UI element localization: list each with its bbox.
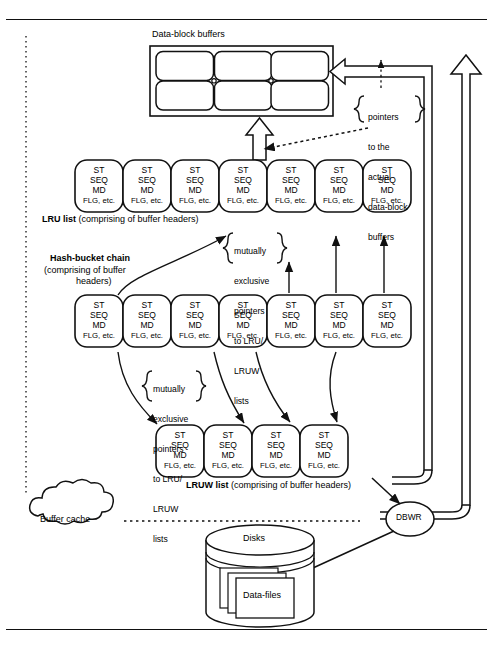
buffer-header-lru-3: STSEQMDFLG, etc. [171, 165, 219, 206]
buffer-header-field-line4: FLG, etc. [171, 331, 219, 341]
buffer-header-hash-5: STSEQMDFLG, etc. [267, 300, 315, 341]
buffer-header-field-line4: FLG, etc. [300, 461, 348, 471]
buffer-header-lru-4: STSEQMDFLG, etc. [219, 165, 267, 206]
buffer-header-field-line1: ST [123, 300, 171, 310]
buffer-header-field-line2: SEQ [300, 440, 348, 450]
buffer-header-field-line1: ST [219, 165, 267, 175]
buffer-header-field-line4: FLG, etc. [75, 331, 123, 341]
buffer-cache-label: Buffer cache [40, 515, 90, 525]
buffer-header-field-line2: SEQ [267, 175, 315, 185]
buffer-header-field-line3: MD [267, 185, 315, 195]
hash-bucket-chain-sub2: headers) [76, 277, 112, 287]
buffer-header-field-line1: ST [252, 430, 300, 440]
buffer-header-field-line4: FLG, etc. [363, 331, 411, 341]
lruw-list-label: LRUW list [186, 480, 229, 490]
data-files-label: Data-files [243, 591, 281, 601]
lru-list-caption: LRU list (comprising of buffer headers) [42, 215, 198, 225]
buffer-header-hash-7: STSEQMDFLG, etc. [363, 300, 411, 341]
buffer-header-lruw-3: STSEQMDFLG, etc. [252, 430, 300, 471]
buffer-header-field-line3: MD [171, 185, 219, 195]
buffer-header-field-line3: MD [315, 320, 363, 330]
buffer-header-field-line2: SEQ [219, 175, 267, 185]
buffer-header-field-line3: MD [75, 320, 123, 330]
buffer-header-field-line3: MD [156, 450, 204, 460]
buffer-header-field-line2: SEQ [219, 310, 267, 320]
buffer-header-field-line4: FLG, etc. [219, 331, 267, 341]
buffer-header-field-line3: MD [363, 185, 411, 195]
buffer-header-field-line1: ST [315, 165, 363, 175]
hash-bucket-chain-label: Hash-bucket chain [50, 254, 130, 264]
buffer-header-hash-4: STSEQMDFLG, etc. [219, 300, 267, 341]
buffer-header-field-line4: FLG, etc. [315, 196, 363, 206]
buffer-header-field-line1: ST [171, 300, 219, 310]
buffer-header-field-line3: MD [219, 320, 267, 330]
buffer-header-field-line1: ST [267, 300, 315, 310]
buffer-header-field-line4: FLG, etc. [156, 461, 204, 471]
buffer-header-field-line4: FLG, etc. [171, 196, 219, 206]
buffer-header-field-line2: SEQ [363, 310, 411, 320]
data-block-buffers-label: Data-block buffers [152, 30, 225, 40]
buffer-header-field-line4: FLG, etc. [123, 331, 171, 341]
buffer-header-field-line2: SEQ [204, 440, 252, 450]
buffer-header-lru-1: STSEQMDFLG, etc. [75, 165, 123, 206]
buffer-header-field-line4: FLG, etc. [363, 196, 411, 206]
buffer-header-field-line2: SEQ [363, 175, 411, 185]
buffer-header-field-line1: ST [123, 165, 171, 175]
lruw-list-sublabel: (comprising of buffer headers) [229, 480, 351, 490]
buffer-header-field-line1: ST [219, 300, 267, 310]
buffer-header-field-line1: ST [156, 430, 204, 440]
buffer-header-field-line2: SEQ [171, 175, 219, 185]
lru-list-sublabel: (comprising of buffer headers) [76, 214, 198, 224]
buffer-header-field-line3: MD [123, 185, 171, 195]
buffer-header-hash-1: STSEQMDFLG, etc. [75, 300, 123, 341]
buffer-header-field-line1: ST [171, 165, 219, 175]
lruw-list-caption: LRUW list (comprising of buffer headers) [186, 481, 351, 491]
buffer-header-field-line1: ST [267, 165, 315, 175]
buffer-header-field-line1: ST [363, 300, 411, 310]
buffer-header-field-line4: FLG, etc. [204, 461, 252, 471]
buffer-header-field-line2: SEQ [123, 310, 171, 320]
buffer-header-field-line3: MD [363, 320, 411, 330]
buffer-header-field-line4: FLG, etc. [252, 461, 300, 471]
buffer-header-field-line3: MD [171, 320, 219, 330]
buffer-header-field-line2: SEQ [75, 175, 123, 185]
dbwr-label: DBWR [396, 513, 422, 522]
buffer-header-field-line2: SEQ [267, 310, 315, 320]
buffer-header-lru-6: STSEQMDFLG, etc. [315, 165, 363, 206]
buffer-header-field-line4: FLG, etc. [315, 331, 363, 341]
buffer-header-field-line4: FLG, etc. [267, 196, 315, 206]
buffer-header-field-line3: MD [315, 185, 363, 195]
buffer-header-lru-5: STSEQMDFLG, etc. [267, 165, 315, 206]
buffer-header-field-line2: SEQ [75, 310, 123, 320]
buffer-header-field-line3: MD [123, 320, 171, 330]
buffer-header-field-line2: SEQ [252, 440, 300, 450]
buffer-header-field-line1: ST [204, 430, 252, 440]
buffer-header-field-line3: MD [204, 450, 252, 460]
buffer-header-field-line1: ST [75, 165, 123, 175]
buffer-header-field-line4: FLG, etc. [75, 196, 123, 206]
buffer-header-field-line4: FLG, etc. [219, 196, 267, 206]
hash-bucket-chain-sub1: (comprising of buffer [44, 266, 126, 276]
buffer-header-field-line2: SEQ [171, 310, 219, 320]
buffer-header-lru-2: STSEQMDFLG, etc. [123, 165, 171, 206]
figure-canvas: Data-block buffers LRU list (comprising … [0, 0, 493, 653]
buffer-header-hash-6: STSEQMDFLG, etc. [315, 300, 363, 341]
buffer-header-field-line2: SEQ [156, 440, 204, 450]
buffer-header-field-line4: FLG, etc. [123, 196, 171, 206]
buffer-header-lru-7: STSEQMDFLG, etc. [363, 165, 411, 206]
buffer-header-lruw-2: STSEQMDFLG, etc. [204, 430, 252, 471]
buffer-header-field-line3: MD [267, 320, 315, 330]
buffer-header-field-line1: ST [300, 430, 348, 440]
buffer-header-field-line1: ST [363, 165, 411, 175]
buffer-header-field-line3: MD [75, 185, 123, 195]
buffer-header-field-line3: MD [300, 450, 348, 460]
buffer-header-field-line1: ST [75, 300, 123, 310]
lru-list-label: LRU list [42, 214, 76, 224]
buffer-header-hash-2: STSEQMDFLG, etc. [123, 300, 171, 341]
disks-label: Disks [243, 534, 265, 544]
buffer-header-field-line3: MD [219, 185, 267, 195]
buffer-header-field-line2: SEQ [315, 175, 363, 185]
buffer-header-hash-3: STSEQMDFLG, etc. [171, 300, 219, 341]
buffer-header-field-line2: SEQ [315, 310, 363, 320]
buffer-header-field-line4: FLG, etc. [267, 331, 315, 341]
